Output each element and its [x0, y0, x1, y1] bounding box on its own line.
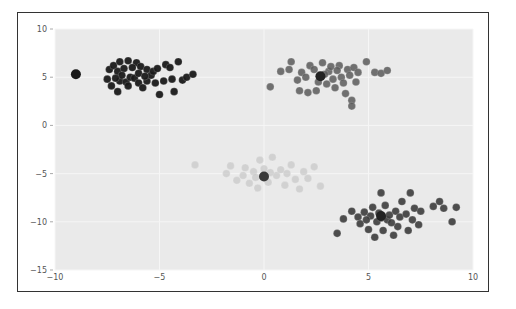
data-point	[287, 58, 295, 66]
data-point	[452, 204, 460, 212]
data-point	[294, 76, 302, 84]
y-tick-label: 10	[37, 25, 47, 34]
data-point	[103, 75, 111, 83]
data-point	[448, 218, 456, 226]
centroid-marker	[315, 71, 325, 81]
data-point	[287, 161, 295, 169]
data-point	[329, 75, 337, 83]
data-point	[129, 64, 137, 72]
data-point	[342, 90, 350, 98]
data-point	[156, 91, 164, 99]
data-point	[407, 189, 415, 197]
scatter-chart: −10−505101050−5−10−15	[0, 0, 516, 309]
data-point	[317, 182, 325, 190]
data-point	[269, 153, 277, 161]
data-point	[191, 161, 199, 169]
data-point	[108, 82, 116, 90]
x-tick-label: −10	[47, 273, 64, 282]
data-point	[285, 66, 293, 74]
data-point	[166, 64, 174, 72]
data-point	[417, 207, 425, 215]
data-point	[283, 170, 291, 178]
data-point	[141, 72, 149, 80]
data-point	[340, 79, 348, 87]
data-point	[277, 68, 285, 76]
data-point	[354, 69, 362, 77]
data-point	[310, 66, 318, 74]
y-tick-label: 5	[42, 73, 47, 82]
data-point	[120, 65, 128, 73]
data-point	[352, 78, 360, 86]
data-point	[346, 71, 354, 79]
data-point	[333, 230, 341, 238]
data-point	[354, 213, 362, 221]
data-point	[300, 168, 308, 176]
data-point	[233, 177, 241, 185]
data-point	[160, 77, 168, 85]
x-tick-label: 10	[468, 273, 478, 282]
x-tick-label: −5	[154, 273, 166, 282]
data-point	[323, 80, 331, 88]
data-point	[256, 156, 264, 164]
data-point	[409, 216, 417, 224]
data-point	[114, 88, 122, 96]
data-point	[390, 231, 398, 239]
data-point	[223, 170, 231, 178]
data-point	[124, 82, 132, 90]
data-point	[168, 75, 176, 83]
data-point	[319, 59, 327, 67]
data-point	[312, 87, 320, 95]
centroid-marker	[71, 69, 81, 79]
y-axis-ticks: 1050−5−10−15	[30, 25, 53, 275]
data-point	[189, 71, 197, 79]
data-point	[227, 162, 235, 170]
data-point	[239, 172, 247, 180]
data-point	[340, 215, 348, 223]
y-tick-label: −10	[30, 218, 47, 227]
data-point	[379, 227, 387, 235]
y-tick-label: −5	[35, 170, 47, 179]
data-point	[348, 207, 356, 215]
data-point	[139, 84, 147, 92]
data-point	[381, 202, 389, 210]
centroid-marker	[259, 171, 269, 181]
data-point	[241, 164, 249, 172]
data-point	[371, 233, 379, 241]
data-point	[266, 83, 274, 91]
data-point	[246, 179, 254, 187]
data-point	[384, 67, 392, 75]
x-axis-ticks: −10−50510	[47, 273, 479, 282]
data-point	[363, 58, 371, 66]
data-point	[296, 87, 304, 95]
data-point	[415, 221, 423, 229]
data-point	[154, 65, 162, 73]
data-point	[365, 226, 373, 234]
data-point	[331, 84, 339, 92]
data-point	[292, 176, 300, 184]
data-point	[152, 79, 160, 87]
data-point	[363, 216, 371, 224]
data-point	[404, 227, 412, 235]
data-point	[304, 175, 312, 183]
data-point	[436, 198, 444, 206]
data-point	[170, 88, 178, 96]
x-tick-label: 5	[366, 273, 371, 282]
data-point	[398, 198, 406, 206]
data-point	[254, 184, 262, 192]
data-point	[304, 89, 312, 97]
y-tick-label: −15	[30, 266, 47, 275]
data-point	[281, 181, 289, 189]
centroid-marker	[376, 211, 386, 221]
data-point	[333, 67, 341, 75]
data-point	[429, 203, 437, 211]
data-point	[388, 219, 396, 227]
data-point	[124, 57, 132, 65]
data-point	[175, 58, 183, 66]
data-point	[310, 163, 318, 171]
data-point	[348, 102, 356, 110]
data-point	[296, 185, 304, 193]
x-tick-label: 0	[261, 273, 266, 282]
data-point	[369, 204, 377, 212]
data-point	[302, 73, 310, 81]
data-point	[112, 74, 120, 82]
